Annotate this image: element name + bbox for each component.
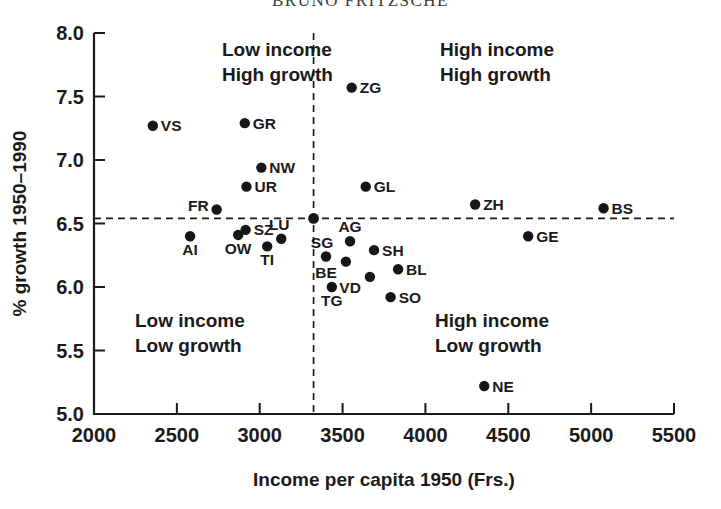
plot-canvas: 200025003000350040004500500055008.07.57.… <box>0 0 721 509</box>
x-tick-label: 2000 <box>72 424 117 446</box>
quadrant-label-top-right-line2: High growth <box>440 64 551 85</box>
quadrant-label-bottom-left-line1: Low income <box>135 310 245 331</box>
quadrant-label-top-left-line2: High growth <box>222 64 333 85</box>
x-tick-label: 5500 <box>652 424 697 446</box>
y-tick-label: 8.0 <box>56 22 84 44</box>
x-tick-label: 4000 <box>403 424 448 446</box>
x-axis-title: Income per capita 1950 (Frs.) <box>253 469 515 490</box>
axis-spines <box>94 33 674 414</box>
x-tick-label: 3000 <box>237 424 282 446</box>
data-point-be <box>341 256 351 266</box>
quadrant-label-bottom-right-line1: High income <box>435 310 549 331</box>
quadrant-label-bottom-right-line2: Low growth <box>435 335 542 356</box>
x-tick-label: 3500 <box>320 424 365 446</box>
y-tick-label: 7.5 <box>56 86 84 108</box>
y-tick-label: 7.0 <box>56 149 84 171</box>
data-point-label-zh: ZH <box>483 196 504 213</box>
y-axis-title: % growth 1950–1990 <box>9 131 30 317</box>
data-point-lu <box>276 234 286 244</box>
data-point-label-be: BE <box>315 264 337 281</box>
data-point-label-so: SO <box>399 289 421 306</box>
data-point-sz <box>240 225 250 235</box>
data-point-label-nw: NW <box>269 159 295 176</box>
y-tick-label: 6.0 <box>56 276 84 298</box>
x-tick-label: 5000 <box>569 424 614 446</box>
data-point-label-zg: ZG <box>360 79 382 96</box>
data-point-sh <box>369 245 379 255</box>
data-point-label-sg: SG <box>311 234 333 251</box>
data-point-label-bs: BS <box>612 200 634 217</box>
data-point-label-ag: AG <box>338 218 361 235</box>
data-point-fr <box>211 204 221 214</box>
data-point-gr <box>240 118 250 128</box>
reference-intersection-marker <box>308 213 319 224</box>
data-point-ur <box>241 181 251 191</box>
data-point-label-bl: BL <box>406 261 427 278</box>
reference-lines <box>94 33 674 414</box>
data-point-label-vs: VS <box>161 117 182 134</box>
data-point-ge <box>523 231 533 241</box>
x-tick-label: 4500 <box>486 424 531 446</box>
data-point-ne <box>479 381 489 391</box>
data-point-bs <box>598 203 608 213</box>
data-point-label-ai: AI <box>182 241 198 258</box>
data-point-vd <box>365 272 375 282</box>
axis-ticks <box>94 33 674 414</box>
data-point-ai <box>185 231 195 241</box>
data-point-label-ge: GE <box>536 228 558 245</box>
data-point-label-ne: NE <box>492 378 514 395</box>
data-point-gl <box>361 181 371 191</box>
x-tick-label: 2500 <box>155 424 200 446</box>
data-point-label-ti: TI <box>260 251 274 268</box>
data-point-label-ow: OW <box>225 240 252 257</box>
data-point-ag <box>345 236 355 246</box>
data-point-nw <box>256 162 266 172</box>
data-point-label-lu: LU <box>269 216 290 233</box>
data-point-tg <box>327 282 337 292</box>
data-point-label-tg: TG <box>321 292 343 309</box>
y-tick-label: 5.5 <box>56 340 84 362</box>
data-point-label-sh: SH <box>382 242 404 259</box>
data-point-bl <box>393 264 403 274</box>
data-point-label-fr: FR <box>188 197 209 214</box>
data-point-label-vd: VD <box>339 279 361 296</box>
data-point-zg <box>346 82 356 92</box>
axis-frame <box>94 33 674 414</box>
data-point-so <box>385 292 395 302</box>
quadrant-label-top-left-line1: Low income <box>222 39 332 60</box>
y-tick-label: 5.0 <box>56 403 84 425</box>
data-point-zh <box>470 199 480 209</box>
quadrant-label-bottom-left-line2: Low growth <box>135 335 242 356</box>
quadrant-label-top-right-line1: High income <box>440 39 554 60</box>
data-point-sg <box>321 251 331 261</box>
data-point-label-gl: GL <box>374 178 396 195</box>
data-point-ti <box>262 241 272 251</box>
y-tick-label: 6.5 <box>56 213 84 235</box>
data-point-vs <box>148 121 158 131</box>
data-point-label-ur: UR <box>254 178 276 195</box>
data-point-label-gr: GR <box>253 115 276 132</box>
scatter-plot-figure: BRUNO FRITZSCHE 200025003000350040004500… <box>0 0 721 509</box>
